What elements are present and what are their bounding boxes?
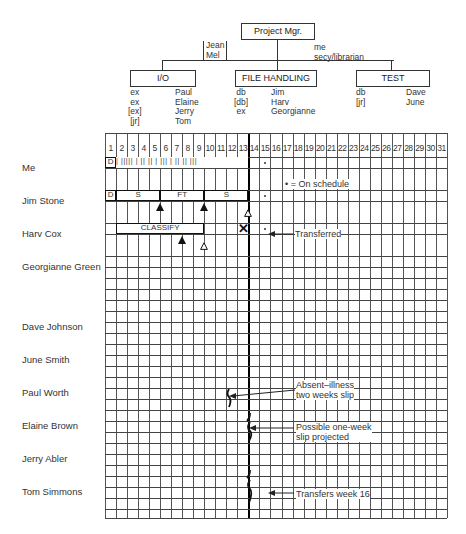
annotation-arrows (0, 0, 466, 534)
